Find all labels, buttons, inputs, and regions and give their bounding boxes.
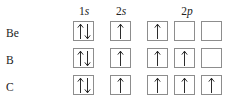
up-arrow-icon — [77, 78, 84, 93]
column-header-2p: 2p — [147, 6, 227, 18]
electron-arrows — [175, 76, 194, 94]
electron-arrows — [111, 76, 130, 94]
up-arrow-icon — [154, 24, 161, 39]
orbital-box-1s — [73, 48, 94, 68]
orbital-box-2p-1 — [174, 21, 195, 41]
orbital-box-2p-2 — [201, 75, 222, 95]
column-header-1s: 1s — [73, 6, 95, 18]
electron-arrows — [74, 76, 93, 94]
column-header-2s: 2s — [110, 6, 132, 18]
orbital-box-2p-0 — [147, 75, 168, 95]
up-arrow-icon — [181, 78, 188, 93]
orbital-filling-diagram: 1s 2s 2p Be B C — [0, 0, 230, 104]
up-arrow-icon — [117, 78, 124, 93]
electron-arrows — [74, 22, 93, 40]
electron-arrows — [148, 22, 167, 40]
up-arrow-icon — [77, 51, 84, 66]
electron-arrows — [148, 49, 167, 67]
orbital-box-2p-1 — [174, 48, 195, 68]
orbital-box-2s — [110, 21, 131, 41]
column-header-2p-subshell: p — [187, 5, 193, 17]
column-header-1s-subshell: s — [85, 5, 89, 17]
up-arrow-icon — [77, 24, 84, 39]
up-arrow-icon — [154, 78, 161, 93]
down-arrow-icon — [84, 24, 91, 39]
electron-arrows — [148, 76, 167, 94]
down-arrow-icon — [84, 78, 91, 93]
up-arrow-icon — [154, 51, 161, 66]
orbital-box-1s — [73, 75, 94, 95]
electron-arrows — [202, 76, 221, 94]
orbital-box-2p-2 — [201, 48, 222, 68]
electron-arrows — [111, 49, 130, 67]
electron-arrows — [74, 49, 93, 67]
electron-arrows — [175, 49, 194, 67]
orbital-row-0 — [0, 21, 230, 43]
orbital-row-1 — [0, 48, 230, 70]
orbital-box-1s — [73, 21, 94, 41]
orbital-box-2p-1 — [174, 75, 195, 95]
down-arrow-icon — [84, 51, 91, 66]
up-arrow-icon — [117, 51, 124, 66]
orbital-box-2s — [110, 75, 131, 95]
orbital-box-2p-0 — [147, 48, 168, 68]
up-arrow-icon — [117, 24, 124, 39]
electron-arrows — [111, 22, 130, 40]
orbital-box-2p-2 — [201, 21, 222, 41]
up-arrow-icon — [181, 51, 188, 66]
orbital-box-2p-0 — [147, 21, 168, 41]
column-header-2s-subshell: s — [122, 5, 126, 17]
orbital-box-2s — [110, 48, 131, 68]
up-arrow-icon — [208, 78, 215, 93]
orbital-row-2 — [0, 75, 230, 97]
